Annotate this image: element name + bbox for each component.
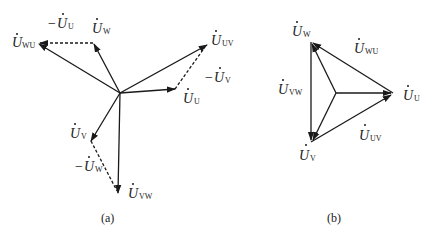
svg-text:U: U xyxy=(214,70,225,85)
phasor-u-wu xyxy=(39,44,120,93)
svg-text:U: U xyxy=(359,128,370,143)
svg-text:U: U xyxy=(68,22,74,31)
phasor-neg-u-v xyxy=(175,47,205,89)
svg-text:U: U xyxy=(92,21,103,36)
svg-text:−: − xyxy=(48,16,56,31)
svg-text:U: U xyxy=(57,16,68,31)
phasor-diagram: U WU − U U U W U UV − U V U U xyxy=(0,0,426,235)
svg-text:U: U xyxy=(414,94,420,103)
label-b-u-wu: U WU xyxy=(354,38,379,56)
caption-a: (a) xyxy=(101,211,114,225)
label-b-u-u: U U xyxy=(403,85,420,103)
label-neg-u-w: − U W xyxy=(75,156,103,174)
svg-text:WU: WU xyxy=(365,47,379,56)
svg-text:W: W xyxy=(95,165,103,174)
panel-b xyxy=(311,42,393,142)
svg-text:U: U xyxy=(211,33,222,48)
svg-text:UV: UV xyxy=(370,134,382,143)
label-u-uv: U UV xyxy=(211,30,234,48)
phasor-u-vw xyxy=(118,93,120,193)
svg-text:U: U xyxy=(403,88,414,103)
svg-text:U: U xyxy=(183,91,194,106)
svg-text:−: − xyxy=(75,159,83,174)
svg-text:U: U xyxy=(299,148,310,163)
label-b-u-w: U W xyxy=(292,21,311,39)
label-u-vw: U VW xyxy=(128,183,153,201)
phasor-b-u-wu xyxy=(313,43,393,93)
caption-b: (b) xyxy=(327,211,341,225)
svg-text:U: U xyxy=(354,41,365,56)
label-u-u: U U xyxy=(183,88,200,106)
label-neg-u-u: − U U xyxy=(48,13,74,31)
panel-b-labels: U W U WU U VW U U U V U UV (b) xyxy=(278,21,420,225)
panel-a xyxy=(39,43,207,193)
svg-text:VW: VW xyxy=(289,88,303,97)
svg-text:−: − xyxy=(205,70,213,85)
svg-text:V: V xyxy=(225,76,231,85)
phasor-u-uv xyxy=(120,45,207,93)
label-u-w: U W xyxy=(92,18,111,36)
svg-text:W: W xyxy=(303,30,311,39)
panel-a-labels: U WU − U U U W U UV − U V U U xyxy=(12,13,234,225)
svg-text:U: U xyxy=(194,97,200,106)
svg-text:U: U xyxy=(278,82,289,97)
label-u-wu: U WU xyxy=(12,33,36,50)
svg-text:U: U xyxy=(84,159,95,174)
svg-text:V: V xyxy=(81,132,87,141)
svg-text:V: V xyxy=(310,154,316,163)
svg-text:UV: UV xyxy=(222,39,234,48)
label-neg-u-v: − U V xyxy=(205,67,231,85)
phasor-b-u-w xyxy=(312,44,336,93)
svg-text:U: U xyxy=(70,126,81,141)
phasor-b-u-v xyxy=(313,93,336,140)
label-b-u-v: U V xyxy=(299,144,316,163)
phasor-u-v xyxy=(91,93,120,141)
svg-text:U: U xyxy=(292,24,303,39)
label-b-u-vw: U VW xyxy=(278,79,303,97)
svg-text:VW: VW xyxy=(139,192,153,201)
label-u-v: U V xyxy=(70,123,87,141)
svg-text:W: W xyxy=(103,27,111,36)
label-b-u-uv: U UV xyxy=(359,124,382,143)
svg-text:U: U xyxy=(128,186,139,201)
phasor-u-u xyxy=(120,89,175,93)
svg-text:WU: WU xyxy=(22,41,36,50)
